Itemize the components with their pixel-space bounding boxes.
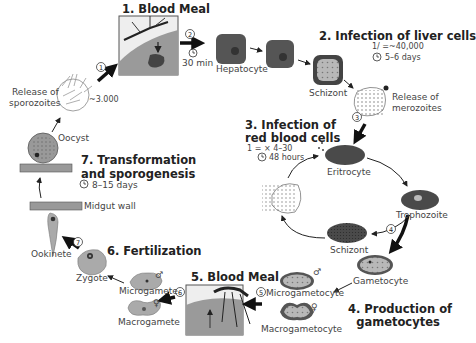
label-eritrocyte: Eritrocyte xyxy=(327,167,371,177)
blood-meal-1-illustration xyxy=(119,16,178,75)
male-symbol-gamete: ♂ xyxy=(155,270,163,280)
blood-meal-5-illustration xyxy=(186,285,250,335)
stage-2-duration: 5–6 days xyxy=(385,53,421,62)
label-sporozoite-count: ~3.000 xyxy=(89,95,119,104)
label-zygote: Zygote xyxy=(76,273,108,283)
svg-text:6: 6 xyxy=(178,289,182,297)
label-schizont-liver: Schizont xyxy=(309,88,347,98)
label-ookinete: Ookinete xyxy=(31,249,72,259)
sporozoite-burst xyxy=(57,74,92,111)
midgut-wall-graphic xyxy=(20,164,82,210)
stage-6-title: 6. Fertilization xyxy=(107,245,202,258)
label-30-min: 30 min xyxy=(182,58,213,68)
stage-7-title-line1: 7. Transformation xyxy=(81,154,196,167)
oocyst-cell xyxy=(28,118,60,163)
label-release-sporozoites-2: sporozoites xyxy=(9,98,60,108)
label-midgut-wall: Midgut wall xyxy=(84,201,136,211)
zygote-cell xyxy=(78,250,107,275)
label-macrogamete: Macrogamete xyxy=(118,317,180,327)
svg-text:3: 3 xyxy=(355,114,359,122)
label-trophozoite: Trophozoite xyxy=(396,210,448,220)
stage-4-title-line2: gametocytes xyxy=(348,316,448,329)
svg-text:1: 1 xyxy=(99,64,103,72)
stage-2-formula: 1/ =~40,000 xyxy=(372,42,424,51)
label-schizont-blood: Schizont xyxy=(330,245,368,255)
label-oocyst: Oocyst xyxy=(58,133,89,143)
svg-text:4: 4 xyxy=(389,226,393,234)
stage-3-formula: 1 = × 4–30 xyxy=(247,144,292,153)
label-macrogametocyte: Macrogametocyte xyxy=(261,324,342,334)
svg-text:5: 5 xyxy=(259,289,263,297)
stage-3-duration: 48 hours xyxy=(269,153,304,162)
male-symbol-gametocyte: ♂ xyxy=(313,267,321,277)
label-microgametocyte: Microgametocyte xyxy=(266,288,344,298)
stage-7-duration: 8–15 days xyxy=(92,180,138,190)
svg-text:2: 2 xyxy=(188,31,192,39)
label-release-sporozoites-1: Release of xyxy=(12,87,59,97)
stage-5-title: 5. Blood Meal xyxy=(191,271,279,284)
label-hepatocyte: Hepatocyte xyxy=(216,64,268,74)
label-release-merozoites-1: Release of xyxy=(392,92,439,102)
female-symbol-gamete: ♀ xyxy=(153,298,160,308)
svg-text:7: 7 xyxy=(76,239,80,247)
stage-1-title: 1. Blood Meal xyxy=(122,3,210,16)
label-release-merozoites-2: merozoites xyxy=(392,103,442,113)
label-microgamete: Microgamete xyxy=(119,286,178,296)
merozoite-release xyxy=(344,80,389,116)
label-gametocyte: Gametocyte xyxy=(353,276,408,286)
female-symbol-gametocyte: ♀ xyxy=(311,302,318,312)
